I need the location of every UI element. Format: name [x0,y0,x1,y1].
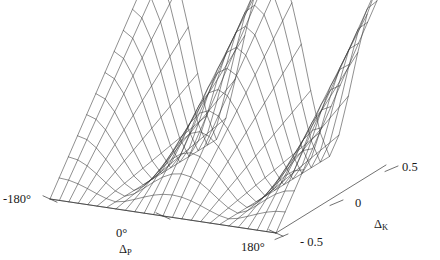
z-axis-tick-min: - 0.5 [300,236,323,249]
z-axis-tick-max: 0.5 [402,161,418,174]
axis-lines [43,165,398,240]
x-axis-title-base: Δ [119,242,127,256]
x-axis-tick-mid: 0° [116,227,127,240]
z-axis-title: ΔK [374,218,388,231]
surface-mesh [50,0,386,233]
x-axis-tick-max: 180° [241,241,265,254]
z-axis-title-subscript: K [382,222,388,232]
x-axis-title-subscript: P [127,247,132,257]
surface-plot-figure: -180° 0° 180° - 0.5 0 0.5 ΔP ΔK [0,0,440,260]
x-axis-title: ΔP [119,243,132,256]
x-axis-tick-min: -180° [3,193,31,206]
z-axis-tick-mid: 0 [355,197,361,210]
z-axis-title-base: Δ [374,217,382,231]
